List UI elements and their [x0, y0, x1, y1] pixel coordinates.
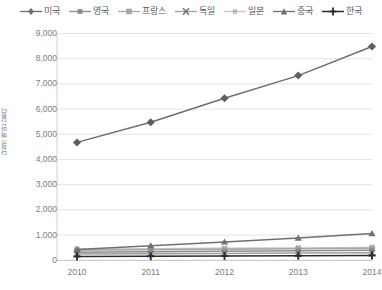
x-tick-2013: 2013	[278, 268, 318, 277]
x-tick-2014: 2014	[352, 268, 382, 277]
x-tick-2010: 2010	[57, 268, 97, 277]
line-chart: 미국 영국 프랑스 독일	[0, 0, 382, 290]
x-tick-2012: 2012	[205, 268, 245, 277]
x-axis-ticks: 2010 2011 2012 2013 2014	[0, 0, 382, 290]
x-tick-2011: 2011	[131, 268, 171, 277]
